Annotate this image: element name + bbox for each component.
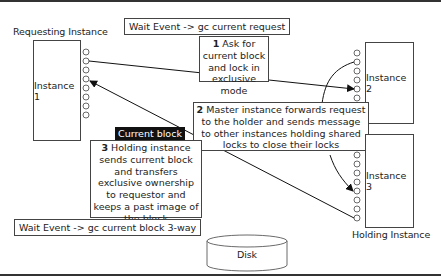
disk-label: Disk xyxy=(237,249,257,260)
instance-3-box: Instance 3 xyxy=(365,134,414,228)
instance-2-box: Instance 2 xyxy=(365,42,414,124)
holding-instance-label: Holding Instance xyxy=(352,229,430,240)
step-1-note: 1 Ask for current block and lock in excl… xyxy=(199,36,269,82)
instance-2-label: Instance 2 xyxy=(366,72,413,94)
step-1-number: 1 xyxy=(213,38,220,49)
instance-1-box: Instance 1 xyxy=(33,40,81,141)
bottom-border xyxy=(0,274,441,276)
step-3-note: 3 Holding instance sends current block a… xyxy=(90,140,202,218)
current-block-tag: Current block xyxy=(115,127,185,140)
step-2-number: 2 xyxy=(197,104,204,115)
wait-event-top: Wait Event -> gc current request xyxy=(124,18,290,35)
wait-event-bottom: Wait Event -> gc current block 3-way xyxy=(14,219,201,236)
step-2-text: Master instance forwards request to the … xyxy=(201,104,365,150)
step-2-note: 2 Master instance forwards request to th… xyxy=(193,102,369,151)
requesting-instance-label: Requesting Instance xyxy=(13,26,108,37)
step-3-text: Holding instance sends current block and… xyxy=(93,142,198,224)
instance-3-label: Instance 3 xyxy=(366,170,413,192)
instance-1-label: Instance 1 xyxy=(34,80,80,102)
step-3-number: 3 xyxy=(101,142,108,153)
